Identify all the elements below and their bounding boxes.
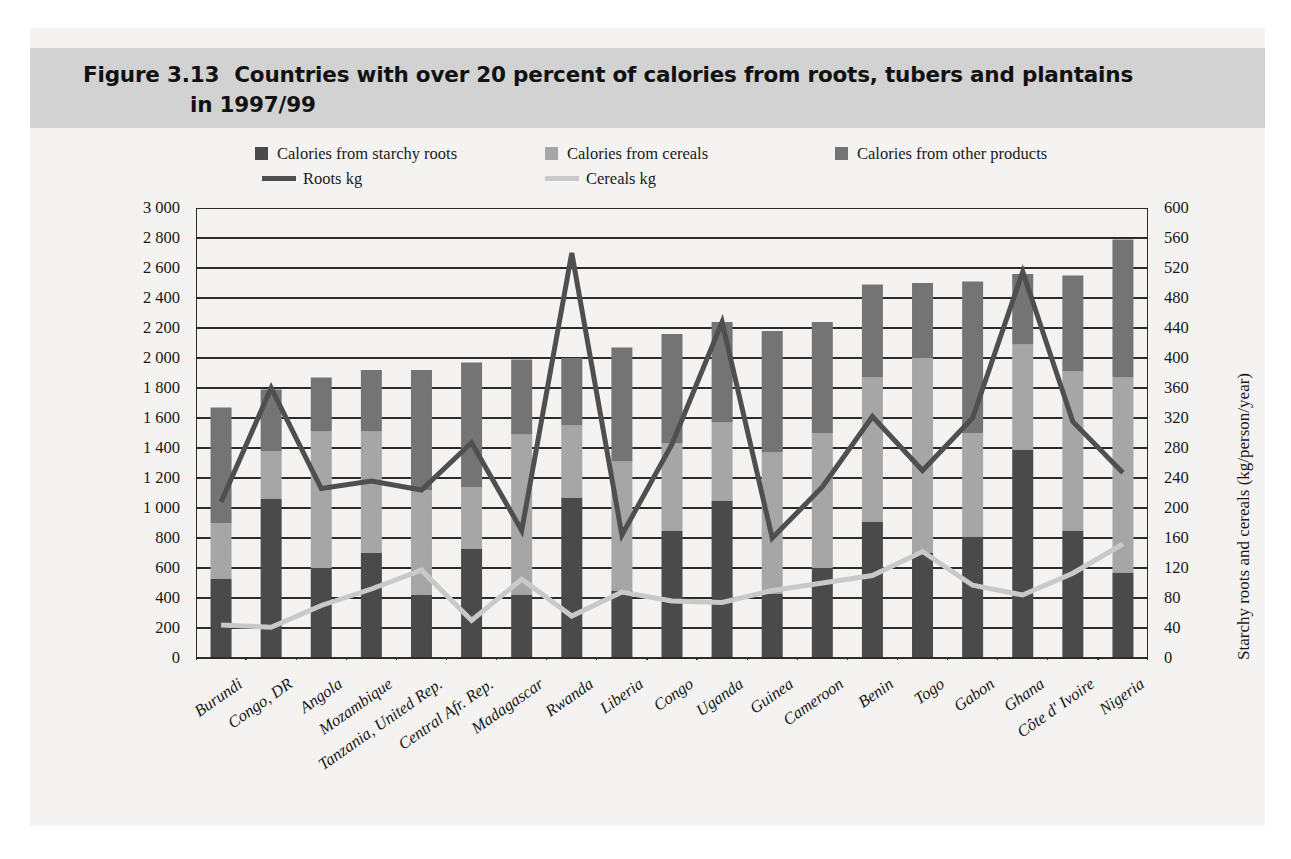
y-axis-right-tick-label: 440 [1164, 320, 1224, 337]
legend-label: Calories from starchy roots [277, 144, 457, 163]
bar-segment[interactable] [211, 579, 232, 659]
legend-other-products[interactable]: Calories from other products [835, 142, 1047, 166]
bar-segment[interactable] [611, 348, 632, 462]
bar-segment[interactable] [962, 282, 983, 434]
bar-segment[interactable] [862, 378, 883, 522]
figure-title-line1: Countries with over 20 percent of calori… [234, 62, 1133, 87]
chart-canvas [196, 208, 1148, 660]
legend-color-swatch [545, 147, 558, 160]
bar-segment[interactable] [1062, 276, 1083, 372]
bar-segment[interactable] [812, 433, 833, 568]
bar-segment[interactable] [762, 594, 783, 659]
bar-group[interactable] [962, 282, 983, 659]
bar-segment[interactable] [912, 553, 933, 658]
bar-segment[interactable] [912, 358, 933, 553]
y-axis-left-tick-label: 600 [110, 560, 180, 577]
legend-label: Calories from cereals [567, 144, 708, 163]
bar-segment[interactable] [962, 433, 983, 537]
bar-segment[interactable] [561, 498, 582, 659]
bar-segment[interactable] [511, 595, 532, 658]
legend-cereals[interactable]: Calories from cereals [545, 142, 708, 166]
bar-segment[interactable] [1012, 274, 1033, 345]
bar-group[interactable] [1012, 274, 1033, 658]
y-axis-right-tick-label: 600 [1164, 200, 1224, 217]
bar-segment[interactable] [361, 553, 382, 658]
legend-cereals-kg[interactable]: Cereals kg [545, 167, 656, 191]
page-title: Figure 3.13Countries with over 20 percen… [83, 60, 1213, 120]
bar-segment[interactable] [1062, 531, 1083, 659]
bar-segment[interactable] [662, 531, 683, 659]
bar-segment[interactable] [862, 285, 883, 378]
bar-segment[interactable] [511, 360, 532, 435]
bar-group[interactable] [411, 370, 432, 658]
bar-segment[interactable] [1112, 240, 1133, 378]
bar-segment[interactable] [1012, 345, 1033, 450]
bar-group[interactable] [762, 331, 783, 658]
bar-segment[interactable] [1112, 573, 1133, 659]
bar-group[interactable] [712, 322, 733, 658]
figure-title-band: Figure 3.13Countries with over 20 percen… [30, 48, 1265, 128]
bar-segment[interactable] [411, 595, 432, 658]
y-axis-right-tick-label: 520 [1164, 260, 1224, 277]
bar-group[interactable] [1062, 276, 1083, 659]
y-axis-right-tick-label: 480 [1164, 290, 1224, 307]
bar-segment[interactable] [261, 451, 282, 499]
legend-line-marker [545, 176, 579, 181]
y-axis-left-tick-label: 3 000 [110, 200, 180, 217]
bar-group[interactable] [211, 408, 232, 659]
y-axis-right-title: Starchy roots and cereals (kg/person/yea… [1234, 373, 1254, 660]
bar-group[interactable] [261, 390, 282, 659]
bar-segment[interactable] [211, 408, 232, 524]
bar-group[interactable] [862, 285, 883, 659]
bar-segment[interactable] [712, 501, 733, 659]
legend-color-swatch [835, 147, 848, 160]
bar-group[interactable] [1112, 240, 1133, 659]
y-axis-left-tick-label: 1 800 [110, 380, 180, 397]
bar-segment[interactable] [361, 370, 382, 432]
legend-line-marker [262, 176, 296, 181]
legend-roots-kg[interactable]: Roots kg [262, 167, 362, 191]
y-axis-left-tick-label: 800 [110, 530, 180, 547]
bar-segment[interactable] [461, 487, 482, 549]
bar-group[interactable] [662, 334, 683, 658]
bar-segment[interactable] [762, 331, 783, 453]
y-axis-right-tick-label: 80 [1164, 590, 1224, 607]
y-axis-left-tick-label: 2 800 [110, 230, 180, 247]
y-axis-right-tick-label: 280 [1164, 440, 1224, 457]
bar-segment[interactable] [411, 370, 432, 490]
bar-segment[interactable] [1012, 450, 1033, 659]
figure-page: Figure 3.13Countries with over 20 percen… [0, 0, 1291, 859]
bar-segment[interactable] [962, 537, 983, 659]
y-axis-left-tick-label: 1 200 [110, 470, 180, 487]
chart-legend: Calories from starchy rootsCalories from… [255, 142, 955, 194]
bar-segment[interactable] [912, 283, 933, 358]
bar-segment[interactable] [611, 591, 632, 659]
bar-segment[interactable] [712, 423, 733, 501]
bar-group[interactable] [511, 360, 532, 659]
bar-segment[interactable] [862, 522, 883, 659]
y-axis-left-tick-label: 2 600 [110, 260, 180, 277]
bar-segment[interactable] [812, 322, 833, 433]
bar-segment[interactable] [311, 378, 332, 432]
bar-segment[interactable] [261, 499, 282, 658]
bar-segment[interactable] [361, 432, 382, 554]
y-axis-left-tick-label: 2 400 [110, 290, 180, 307]
bar-group[interactable] [361, 370, 382, 658]
bar-segment[interactable] [461, 549, 482, 659]
bar-segment[interactable] [311, 432, 332, 569]
y-axis-right-tick-label: 320 [1164, 410, 1224, 427]
chart-plot-area: 02004006008001 0001 2001 4001 6001 8002 … [196, 208, 1148, 660]
y-axis-right-tick-label: 200 [1164, 500, 1224, 517]
bar-segment[interactable] [311, 568, 332, 658]
bar-segment[interactable] [561, 426, 582, 498]
bar-segment[interactable] [211, 523, 232, 579]
bar-segment[interactable] [461, 363, 482, 488]
bar-segment[interactable] [1112, 378, 1133, 573]
y-axis-left-tick-label: 0 [110, 650, 180, 667]
bar-segment[interactable] [762, 453, 783, 594]
bar-group[interactable] [311, 378, 332, 659]
legend-label: Calories from other products [857, 144, 1047, 163]
bar-segment[interactable] [561, 358, 582, 426]
y-axis-right-tick-label: 360 [1164, 380, 1224, 397]
legend-starchy-roots[interactable]: Calories from starchy roots [255, 142, 457, 166]
